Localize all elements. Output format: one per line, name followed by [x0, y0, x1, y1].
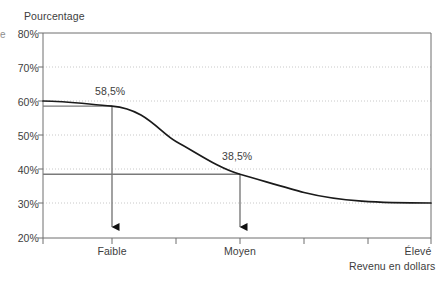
data-curve — [43, 101, 431, 203]
plot-frame — [43, 33, 431, 238]
gridlines — [43, 67, 431, 203]
y-axis-ticks — [38, 33, 43, 238]
chart-container: e Pourcentage Revenu en dollars 80% 70% … — [0, 0, 447, 282]
x-axis-ticks — [43, 238, 431, 244]
chart-svg — [0, 0, 447, 282]
